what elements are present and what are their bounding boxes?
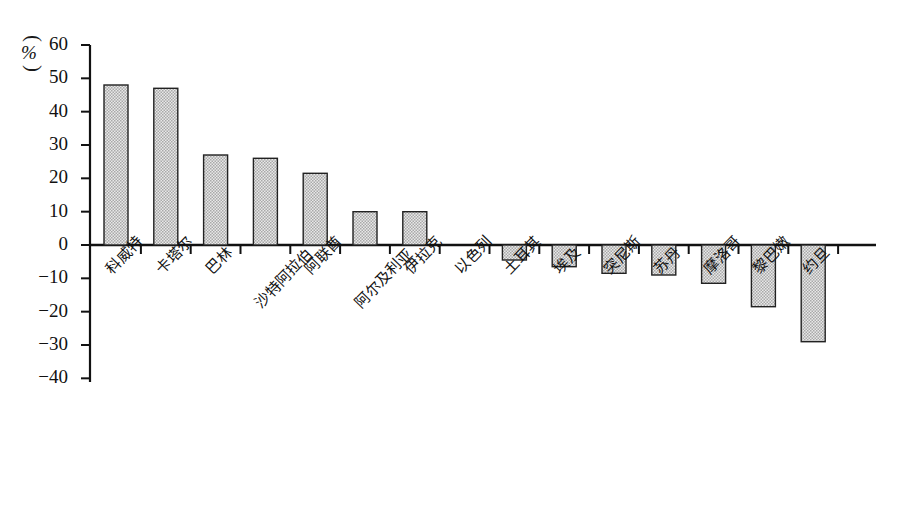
chart-container: ( % ) 6050403020100−10−20−30−40 科威特卡塔尔巴林… (0, 0, 912, 510)
bar (303, 173, 327, 245)
bar (204, 155, 228, 245)
y-axis-tick-label: −30 (22, 334, 68, 353)
bar (104, 85, 128, 245)
y-axis-tick-label: −20 (22, 301, 68, 320)
y-axis-tick-label: 20 (22, 167, 68, 186)
y-axis-tick-label: 50 (22, 67, 68, 86)
y-axis-tick-label: 30 (22, 134, 68, 153)
bar (253, 158, 277, 245)
bar (154, 88, 178, 245)
y-axis-tick-label: −10 (22, 267, 68, 286)
y-axis-tick-label: 40 (22, 101, 68, 120)
bar (353, 212, 377, 245)
y-axis-tick-label: 10 (22, 201, 68, 220)
y-axis-tick-label: 0 (22, 234, 68, 253)
axis-group (81, 45, 876, 382)
y-axis-tick-label: −40 (22, 367, 68, 386)
y-axis-tick-label: 60 (22, 34, 68, 53)
bars-group (104, 85, 825, 342)
